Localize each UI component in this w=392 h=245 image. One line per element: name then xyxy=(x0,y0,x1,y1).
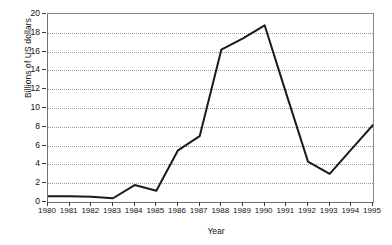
x-tick-mark xyxy=(69,202,70,206)
y-tick-mark xyxy=(42,69,46,70)
y-tick-label: 14 xyxy=(14,64,40,74)
x-tick-mark xyxy=(372,202,373,206)
x-tick-mark xyxy=(47,202,48,206)
x-tick-mark xyxy=(155,202,156,206)
x-tick-mark xyxy=(112,202,113,206)
x-tick-mark xyxy=(177,202,178,206)
x-tick-label: 1995 xyxy=(355,206,389,215)
plot-area xyxy=(47,13,374,203)
y-tick-mark xyxy=(42,88,46,89)
y-tick-label: 0 xyxy=(14,196,40,206)
y-tick-label: 2 xyxy=(14,177,40,187)
x-tick-mark xyxy=(134,202,135,206)
y-tick-label: 10 xyxy=(14,102,40,112)
x-tick-mark xyxy=(90,202,91,206)
y-tick-mark xyxy=(42,13,46,14)
y-tick-label: 8 xyxy=(14,121,40,131)
y-tick-label: 4 xyxy=(14,158,40,168)
y-tick-label: 18 xyxy=(14,27,40,37)
x-tick-mark xyxy=(242,202,243,206)
y-tick-label: 6 xyxy=(14,140,40,150)
y-tick-mark xyxy=(42,107,46,108)
x-axis-title: Year xyxy=(42,226,390,236)
y-tick-mark xyxy=(42,32,46,33)
x-tick-mark xyxy=(329,202,330,206)
x-tick-mark xyxy=(285,202,286,206)
y-tick-mark xyxy=(42,163,46,164)
x-tick-mark xyxy=(220,202,221,206)
y-tick-label: 16 xyxy=(14,46,40,56)
y-tick-mark xyxy=(42,201,46,202)
series-line xyxy=(48,14,373,202)
y-tick-mark xyxy=(42,51,46,52)
y-tick-mark xyxy=(42,126,46,127)
y-tick-mark xyxy=(42,145,46,146)
y-tick-mark xyxy=(42,182,46,183)
x-tick-mark xyxy=(350,202,351,206)
y-tick-label: 12 xyxy=(14,83,40,93)
line-chart: Billions of US dollars 02468101214161820… xyxy=(0,0,392,245)
x-tick-mark xyxy=(307,202,308,206)
x-tick-mark xyxy=(199,202,200,206)
x-tick-mark xyxy=(264,202,265,206)
y-tick-label: 20 xyxy=(14,8,40,18)
